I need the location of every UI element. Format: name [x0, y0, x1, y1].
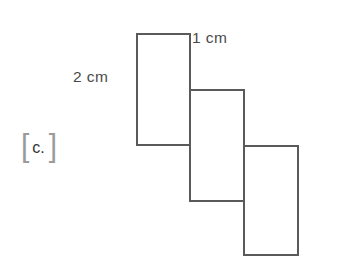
open-bracket: [	[21, 130, 29, 162]
close-bracket: ]	[49, 130, 57, 162]
choice-letter-label: c.	[29, 140, 48, 156]
width-dimension-label: 1 cm	[192, 30, 227, 46]
rectangle-1	[137, 34, 190, 145]
rectangle-3	[244, 146, 298, 255]
height-dimension-label: 2 cm	[73, 69, 108, 85]
figure-container: 1 cm 2 cm [ c. ]	[0, 0, 348, 270]
answer-choice-marker: [ c. ]	[21, 131, 57, 161]
rectangle-2	[190, 90, 244, 201]
